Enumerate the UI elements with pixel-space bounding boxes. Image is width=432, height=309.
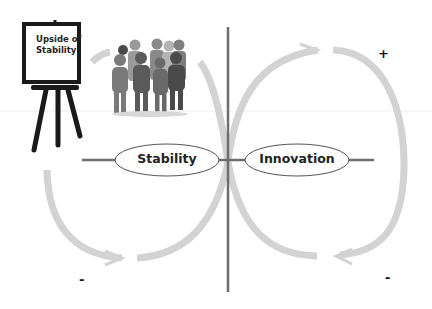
plus-sign-top-right: + [378,46,389,61]
easel-sign-line1: Upside of [36,34,82,45]
innovation-label: Innovation [245,151,349,166]
stability-label: Stability [115,151,219,166]
people-group-icon [112,39,188,118]
minus-sign-bottom-left: - [79,272,84,287]
easel-sign-text: Upside of Stability [36,34,82,56]
easel-sign-line2: Stability [36,45,82,56]
minus-sign-bottom-right: - [385,270,390,285]
